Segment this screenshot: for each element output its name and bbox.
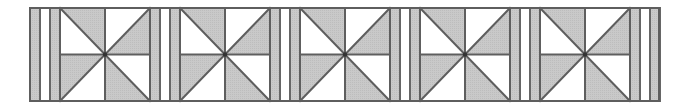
sashing-group-6	[630, 8, 660, 101]
sashing-stripe-shade	[530, 8, 540, 101]
pinwheel-block-5	[540, 8, 630, 101]
sashing-group-5	[510, 8, 540, 101]
sashing-group-1	[30, 8, 60, 101]
sashing-stripe-shade	[270, 8, 280, 101]
center-point	[223, 52, 227, 56]
sashing-stripe-shade	[410, 8, 420, 101]
center-point	[463, 52, 467, 56]
sashing-stripe-shade	[290, 8, 300, 101]
sashing-stripe-shade	[50, 8, 60, 101]
sashing-stripe-light	[280, 8, 290, 101]
pinwheel-block-2	[180, 8, 270, 101]
pinwheel-blocks	[60, 8, 630, 101]
pinwheel-block-1	[60, 8, 150, 101]
sashing-stripe-light	[520, 8, 530, 101]
sashing-group-3	[270, 8, 300, 101]
sashing-stripe-shade	[150, 8, 160, 101]
center-point	[343, 52, 347, 56]
pinwheel-block-4	[420, 8, 510, 101]
sashing-stripe-shade	[630, 8, 640, 101]
sashing-stripe-light	[400, 8, 410, 101]
sashing-stripe-shade	[390, 8, 400, 101]
sashing-stripe-shade	[510, 8, 520, 101]
sashing-stripe-light	[40, 8, 50, 101]
sashing-stripe-light	[160, 8, 170, 101]
pinwheel-block-3	[300, 8, 390, 101]
quilt-border-diagram	[0, 0, 675, 112]
center-point	[583, 52, 587, 56]
center-point	[103, 52, 107, 56]
sashing-group-4	[390, 8, 420, 101]
sashing-stripe-shade	[30, 8, 40, 101]
sashing-stripe-shade	[170, 8, 180, 101]
sashing-group-2	[150, 8, 180, 101]
sashing-stripe-light	[640, 8, 650, 101]
